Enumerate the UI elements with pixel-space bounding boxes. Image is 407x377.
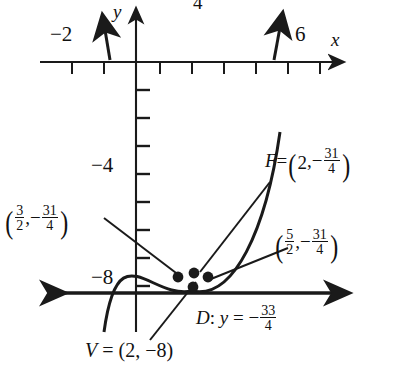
x-axis-label: x xyxy=(331,30,339,49)
focus-frac-num: 31 xyxy=(324,146,340,160)
left-point-label: (32,−314) xyxy=(4,203,69,239)
vertex-name: V xyxy=(85,339,97,361)
directrix-frac-den: 4 xyxy=(260,317,276,332)
directrix-frac-num: 33 xyxy=(260,303,276,317)
directrix-var: y xyxy=(220,307,228,328)
focus-x: 2 xyxy=(298,153,308,172)
x-tick-label-neg2: −2 xyxy=(50,24,72,45)
vertex-coords: (2, −8) xyxy=(119,339,174,361)
figure-canvas: 4 −2 6 x y −4 −8 F=(2,−314) (32,−314) (5… xyxy=(0,0,407,377)
parabola-curve xyxy=(104,132,280,332)
left-x-den: 2 xyxy=(15,217,24,232)
top-clipped-label: 4 xyxy=(193,0,203,12)
parabola-left-arrow xyxy=(104,24,110,60)
leader-left-point xyxy=(104,218,180,276)
focus-equals: = xyxy=(277,150,288,171)
x-tick-label-6: 6 xyxy=(295,24,306,45)
left-y-den: 4 xyxy=(42,217,58,232)
focus-fraction: 314 xyxy=(324,146,340,176)
paren-open-icon: ( xyxy=(5,208,13,239)
directrix-fraction: 334 xyxy=(260,303,276,333)
left-x-fraction: 32 xyxy=(15,203,24,233)
right-x-num: 5 xyxy=(285,227,294,241)
vertex-equals: = xyxy=(102,339,113,361)
paren-close-icon: ) xyxy=(330,232,338,263)
left-y-fraction: 314 xyxy=(42,203,58,233)
directrix-name: D xyxy=(196,307,210,328)
focus-frac-den: 4 xyxy=(324,160,340,175)
vertex-label: V = (2, −8) xyxy=(85,340,173,360)
y-axis-label: y xyxy=(113,2,121,21)
directrix-minus: − xyxy=(248,307,259,328)
point-left xyxy=(173,272,184,283)
right-point-label: (52,−314) xyxy=(274,227,339,263)
point-vertex xyxy=(188,282,199,293)
x-axis-ticks xyxy=(72,62,320,74)
focus-minus: − xyxy=(312,150,323,171)
point-right xyxy=(203,272,214,283)
paren-close-icon: ) xyxy=(342,151,350,182)
left-x-num: 3 xyxy=(15,203,24,217)
right-x-den: 2 xyxy=(285,241,294,256)
y-tick-label-neg4: −4 xyxy=(91,155,113,176)
left-minus: − xyxy=(30,207,41,228)
point-focus xyxy=(189,268,200,279)
y-tick-label-neg8: −8 xyxy=(91,267,113,288)
right-y-num: 31 xyxy=(312,227,328,241)
parabola-right-arrow xyxy=(274,22,281,60)
y-axis-ticks xyxy=(136,90,150,286)
focus-label: F=(2,−314) xyxy=(265,146,351,182)
right-x-fraction: 52 xyxy=(285,227,294,257)
right-y-fraction: 314 xyxy=(312,227,328,257)
right-minus: − xyxy=(300,231,311,252)
paren-close-icon: ) xyxy=(60,208,68,239)
directrix-label: D: y = −334 xyxy=(196,303,277,333)
right-y-den: 4 xyxy=(312,241,328,256)
directrix-equals: = xyxy=(233,307,244,328)
paren-open-icon: ( xyxy=(275,232,283,263)
paren-open-icon: ( xyxy=(288,151,296,182)
left-y-num: 31 xyxy=(42,203,58,217)
directrix-colon: : xyxy=(210,307,215,328)
focus-name: F xyxy=(265,150,277,171)
x-axis xyxy=(40,62,338,74)
